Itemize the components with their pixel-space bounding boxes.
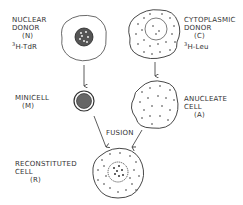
cytoplasmic-donor-nuclear-region — [145, 18, 167, 40]
cytoplasm-dot — [97, 169, 99, 171]
cytoplasm-dot — [151, 53, 153, 55]
cytoplasm-dot — [161, 105, 163, 107]
cytoplasm-dot — [147, 97, 149, 99]
cytoplasm-dot — [169, 89, 171, 91]
reconstituted-cell-label: RECONSTITUTED CELL (R) — [15, 160, 77, 184]
cytoplasmic-donor-cell — [129, 10, 180, 59]
nucleus-speckle — [118, 175, 120, 177]
cytoplasm-dot — [129, 155, 131, 157]
cytoplasm-dot — [117, 191, 119, 193]
cytoplasm-dot — [157, 95, 159, 97]
cytoplasm-dot — [133, 169, 135, 171]
cytoplasm-dot — [137, 43, 139, 45]
nuclear-donor-cell — [62, 15, 107, 60]
nucleus-speckle — [80, 32, 82, 34]
cytoplasm-dot — [105, 175, 107, 177]
cytoplasm-dot — [139, 101, 141, 103]
cytoplasm-dot — [143, 51, 145, 53]
cytoplasm-dot — [129, 177, 131, 179]
nucleus-speckle — [118, 165, 120, 167]
cytoplasm-dot — [165, 41, 167, 43]
cytoplasm-dot — [141, 29, 143, 31]
cytoplasm-dot — [131, 183, 133, 185]
nucleus-speckle — [83, 40, 85, 42]
cytoplasm-dot — [173, 99, 175, 101]
cytoplasm-dot — [137, 23, 139, 25]
cytoplasm-dot — [159, 51, 161, 53]
nucleus-speckle — [79, 38, 81, 40]
nucleus-speckle — [81, 35, 83, 37]
cytoplasm-dot — [151, 105, 153, 107]
cytoplasm-dot — [169, 109, 171, 111]
cytoplasm-dot — [141, 91, 143, 93]
cytoplasm-dot — [152, 25, 154, 27]
cytoplasm-dot — [103, 165, 105, 167]
minicell-label: MINICELL (M) — [15, 94, 49, 110]
reconstituted-line1: RECONSTITUTED — [15, 160, 77, 168]
anucleate-line2: CELL — [184, 103, 227, 111]
nucleus-speckle — [114, 173, 116, 175]
nuclear-donor-line1: NUCLEAR — [12, 16, 47, 24]
nuclear-donor-isotope: H-TdR — [15, 43, 37, 51]
minicell-code: (M) — [15, 102, 49, 110]
cytoplasm-dot — [109, 187, 111, 189]
cytoplasmic-donor-isotope: H-Leu — [187, 43, 208, 51]
cytoplasm-dot — [138, 175, 140, 177]
cytoplasm-dot — [159, 85, 161, 87]
cytoplasm-dot — [161, 13, 163, 15]
reconstituted-line2: CELL — [15, 168, 77, 176]
nuclear-donor-nucleus — [75, 28, 93, 46]
nucleus-speckle — [85, 31, 87, 33]
cytoplasm-dot — [109, 153, 111, 155]
cytoplasm-dot — [155, 33, 157, 35]
nucleus-speckle — [122, 174, 124, 176]
cytoplasmic-donor-label: CYTOPLASMIC DONOR (C) 3H-Leu — [184, 16, 236, 51]
cytoplasmic-donor-code: (C) — [184, 32, 236, 40]
cytoplasm-dot — [173, 25, 175, 27]
cytoplasm-dot — [174, 41, 176, 43]
cytoplasm-dot — [159, 115, 161, 117]
anucleate-cell — [131, 81, 178, 128]
nuclear-donor-line2: DONOR — [12, 24, 47, 32]
anucleate-cell-label: ANUCLEATE CELL (A) — [184, 95, 227, 119]
nucleus-speckle — [87, 36, 89, 38]
cytoplasmic-donor-line2: DONOR — [184, 24, 236, 32]
cytoplasm-dot — [141, 117, 143, 119]
anucleate-code: (A) — [184, 111, 227, 119]
minicell-line1: MINICELL — [15, 94, 49, 102]
cytoplasm-dot — [149, 115, 151, 117]
cytoplasm-dot — [97, 179, 99, 181]
minicell-nucleus — [77, 94, 92, 109]
anucleate-line1: ANUCLEATE — [184, 95, 227, 103]
nucleus-speckle — [86, 41, 88, 43]
cytoplasm-dot — [165, 97, 167, 99]
cytoplasmic-donor-line1: CYTOPLASMIC — [184, 16, 236, 24]
cytoplasm-dot — [149, 87, 151, 89]
anucleate-membrane — [131, 81, 178, 128]
nucleus-speckle — [116, 170, 118, 172]
cytoplasm-dot — [135, 33, 137, 35]
cytoplasm-dot — [143, 109, 145, 111]
reconstituted-nucleus — [108, 162, 128, 182]
cytoplasm-dot — [119, 152, 121, 154]
cytoplasm-dot — [167, 119, 169, 121]
cytoplasm-dot — [135, 161, 137, 163]
nuclear-donor-label: NUCLEAR DONOR (N) 3H-TdR — [12, 16, 47, 51]
cytoplasm-dot — [157, 43, 159, 45]
cytoplasm-dot — [143, 39, 145, 41]
nucleus-speckle — [121, 169, 123, 171]
nucleus-speckle — [113, 167, 115, 169]
minicell — [74, 91, 94, 111]
fusion-label: FUSION — [106, 129, 134, 137]
nuclear-donor-code: (N) — [12, 32, 47, 40]
cytoplasm-dot — [169, 49, 171, 51]
cytoplasm-dot — [149, 45, 151, 47]
reconstituted-cell — [93, 148, 144, 198]
cytoplasm-dot — [171, 33, 173, 35]
cytoplasm-dot — [151, 123, 153, 125]
cytoplasm-dot — [158, 30, 160, 32]
cytoplasm-dot — [135, 189, 137, 191]
cytoplasm-dot — [125, 189, 127, 191]
reconstituted-code: (R) — [15, 176, 77, 184]
cytoplasm-dot — [149, 13, 151, 15]
